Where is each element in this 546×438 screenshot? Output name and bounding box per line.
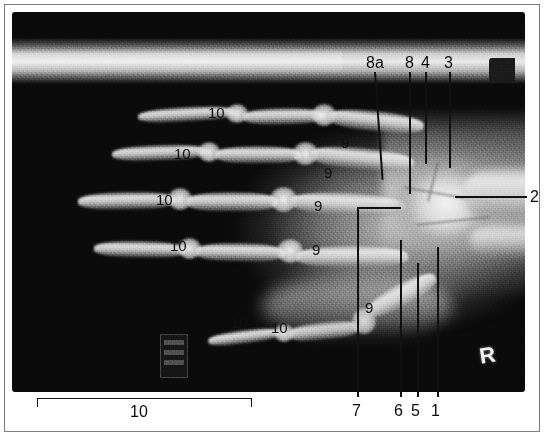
annotation-label-1[interactable]: 1 <box>431 403 440 418</box>
annotation-label-10-thumb-proximal[interactable]: 10 <box>271 320 288 335</box>
annotation-label-10-long-phalanx[interactable]: 10 <box>174 146 191 161</box>
leader-line-4 <box>425 72 427 164</box>
annotation-label-5[interactable]: 5 <box>411 403 420 418</box>
annotation-label-span-10[interactable]: 10 <box>130 404 148 419</box>
annotation-label-10-index-phalanx[interactable]: 10 <box>208 105 225 120</box>
leader-line-8 <box>409 72 411 194</box>
annotation-label-9-metacarpal-2[interactable]: 9 <box>341 135 349 150</box>
annotation-label-3[interactable]: 3 <box>444 55 453 70</box>
leader-line-6 <box>400 240 402 397</box>
annotation-label-10-little-phalanx[interactable]: 10 <box>170 238 187 253</box>
annotation-label-9-metacarpal-5[interactable]: 9 <box>312 242 320 257</box>
annotation-label-2[interactable]: 2 <box>530 189 539 204</box>
annotation-label-10-thumb-distal[interactable]: 10 <box>231 315 248 330</box>
leader-line-2 <box>455 196 527 198</box>
annotation-label-9-metacarpal-4[interactable]: 9 <box>314 198 322 213</box>
annotation-label-8[interactable]: 8 <box>405 55 414 70</box>
annotation-label-10-ring-phalanx[interactable]: 10 <box>156 192 173 207</box>
figure-root: R 8a 8 4 3 2 7 6 5 1 <box>0 0 546 438</box>
annotation-label-4[interactable]: 4 <box>421 55 430 70</box>
annotation-label-9-metacarpal-1[interactable]: 9 <box>365 300 373 315</box>
annotation-label-8a[interactable]: 8a <box>366 55 384 70</box>
annotation-label-6[interactable]: 6 <box>394 403 403 418</box>
annotation-label-9-metacarpal-3[interactable]: 9 <box>324 165 332 180</box>
leader-line-7-horizontal <box>357 207 401 209</box>
leader-line-7-vertical <box>357 207 359 397</box>
leader-line-3 <box>449 72 451 168</box>
leader-line-1 <box>437 247 439 397</box>
annotation-label-7[interactable]: 7 <box>352 403 361 418</box>
leader-line-5 <box>417 263 419 397</box>
